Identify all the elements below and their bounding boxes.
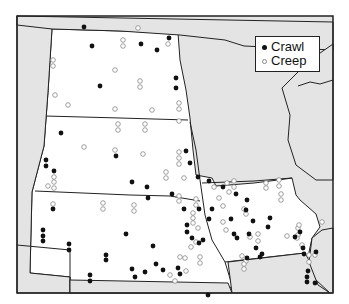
crawl-point (206, 293, 211, 298)
crawl-point (196, 175, 201, 180)
crawl-point (306, 269, 311, 274)
crawl-point (188, 161, 193, 166)
creep-point (177, 119, 182, 124)
filled-dot-icon (262, 45, 267, 50)
crawl-point (130, 180, 135, 185)
creep-point (150, 108, 155, 113)
crawl-point (268, 216, 273, 221)
creep-point (279, 198, 284, 203)
crawl-point (201, 238, 206, 243)
creep-point (256, 232, 261, 237)
creep-point (191, 216, 196, 221)
crawl-point (41, 234, 46, 239)
creep-point (177, 150, 182, 155)
creep-point (138, 85, 143, 90)
crawl-point (44, 158, 49, 163)
crawl-point (82, 25, 87, 30)
creep-point (51, 64, 56, 69)
crawl-point (88, 279, 93, 284)
crawl-point (258, 255, 263, 260)
creep-point (177, 194, 182, 199)
creep-point (182, 176, 187, 181)
creep-point (177, 199, 182, 204)
creep-point (184, 269, 189, 274)
creep-point (143, 122, 148, 127)
creep-point (113, 68, 118, 73)
crawl-point (184, 149, 189, 154)
creep-point (240, 254, 245, 259)
creep-point (225, 181, 230, 186)
creep-point (232, 179, 237, 184)
creep-point (113, 148, 118, 153)
crawl-point (247, 232, 252, 237)
crawl-point (176, 266, 181, 271)
open-circle-icon (262, 59, 267, 64)
creep-point (224, 228, 229, 233)
crawl-point (59, 131, 64, 136)
crawl-point (155, 48, 160, 53)
crawl-point (174, 76, 179, 81)
creep-point (277, 178, 282, 183)
crawl-point (234, 192, 239, 197)
creep-point (51, 202, 56, 207)
creep-point (212, 185, 217, 190)
crawl-point (229, 217, 234, 222)
creep-point (217, 196, 222, 201)
creep-point (242, 267, 247, 272)
creep-point (177, 107, 182, 112)
crawl-point (67, 248, 72, 253)
crawl-point (130, 267, 135, 272)
legend-item-crawl: Crawl (262, 40, 319, 54)
crawl-point (197, 241, 202, 246)
crawl-point (245, 198, 250, 203)
creep-point (164, 176, 169, 181)
creep-point (141, 152, 146, 157)
crawl-point (88, 273, 93, 278)
creep-point (221, 220, 226, 225)
crawl-point (90, 44, 95, 49)
creep-point (121, 38, 126, 43)
crawl-point (167, 36, 172, 41)
crawl-point (298, 230, 303, 235)
crawl-point (235, 236, 240, 241)
crawl-point (51, 207, 56, 212)
crawl-point (154, 262, 159, 267)
crawl-point (185, 230, 190, 235)
creep-point (52, 186, 57, 191)
crawl-point (145, 185, 150, 190)
creep-point (132, 209, 137, 214)
crawl-point (313, 281, 318, 286)
crawl-point (293, 235, 298, 240)
creep-point (178, 255, 183, 260)
creep-point (82, 145, 87, 150)
crawl-point (104, 253, 109, 258)
crawl-point (182, 207, 187, 212)
creep-point (177, 162, 182, 167)
creep-point (189, 245, 194, 250)
creep-point (113, 107, 118, 112)
crawl-point (197, 207, 202, 212)
creep-point (198, 255, 203, 260)
creep-point (116, 122, 121, 127)
crawl-point (232, 232, 237, 237)
crawl-point (67, 242, 72, 247)
creep-point (121, 44, 126, 49)
crawl-point (98, 84, 103, 89)
creep-point (297, 223, 302, 228)
creep-point (191, 211, 196, 216)
creep-point (166, 42, 171, 47)
creep-point (227, 190, 232, 195)
crawl-point (305, 275, 310, 280)
creep-point (198, 261, 203, 266)
crawl-point (245, 256, 250, 261)
creep-point (138, 79, 143, 84)
creep-point (132, 203, 137, 208)
creep-point (177, 101, 182, 106)
creep-point (194, 203, 199, 208)
crawl-point (139, 42, 144, 47)
creep-point (307, 260, 312, 265)
crawl-point (314, 250, 319, 255)
creep-point (285, 234, 290, 239)
crawl-point (44, 164, 49, 169)
creep-point (168, 273, 173, 278)
